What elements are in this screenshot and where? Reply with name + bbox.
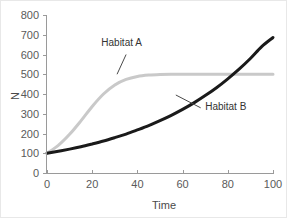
x-tick-label: 100 (264, 178, 282, 190)
y-tick-label: 0 (33, 167, 39, 179)
series-annotation-label-1: Habitat A (101, 37, 142, 48)
y-tick-label: 600 (21, 49, 39, 61)
x-tick-label: 40 (131, 178, 143, 190)
y-tick-label: 200 (21, 128, 39, 140)
x-axis-title: Time (152, 199, 176, 211)
y-tick-label: 300 (21, 108, 39, 120)
series-curve-1 (47, 74, 273, 153)
annotation-leader-line-1 (117, 55, 126, 75)
y-tick-label: 500 (21, 68, 39, 80)
y-tick-label: 700 (21, 29, 39, 41)
chart-tick-labels-group: 0100200300400500600700800020406080100 (21, 9, 283, 190)
series-annotation-label-2: Habitat B (205, 101, 246, 112)
chart-figure: 0100200300400500600700800020406080100 Ha… (0, 0, 287, 218)
y-tick-label: 400 (21, 88, 39, 100)
y-tick-label: 800 (21, 9, 39, 21)
y-tick-label: 100 (21, 147, 39, 159)
series-curve-2 (47, 38, 273, 154)
chart-curves-group (47, 38, 273, 154)
x-tick-label: 20 (86, 178, 98, 190)
population-growth-chart: 0100200300400500600700800020406080100 Ha… (1, 1, 287, 218)
x-tick-label: 60 (176, 178, 188, 190)
x-tick-label: 80 (222, 178, 234, 190)
chart-axes-group (43, 15, 274, 174)
y-axis-title: N (9, 92, 21, 100)
x-tick-label: 0 (44, 178, 50, 190)
